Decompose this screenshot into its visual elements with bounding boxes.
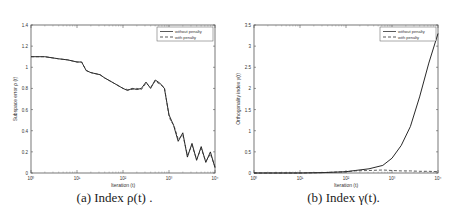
y-tick-label: 3.5 xyxy=(245,23,252,28)
x-tick-label: 10⁴ xyxy=(212,176,219,181)
caption-gamma: (b) Index γ(t). xyxy=(229,190,458,206)
x-tick-label: 10⁰ xyxy=(27,176,34,181)
gamma-chart: 00.511.522.533.510⁰10¹10²10³10⁴Iteration… xyxy=(229,0,458,190)
x-tick-label: 10⁴ xyxy=(435,176,442,181)
plot-area xyxy=(31,25,215,173)
y-axis-label: Orthogonality index γ(t) xyxy=(235,73,241,125)
x-tick-label: 10² xyxy=(343,176,350,181)
y-tick-label: 0.4 xyxy=(22,129,29,134)
y-tick-label: 1.2 xyxy=(22,44,29,49)
plot-area xyxy=(254,25,438,173)
chart-panel-rho: 00.20.40.60.811.21.410⁰10¹10²10³10⁴Itera… xyxy=(0,0,229,219)
x-tick-label: 10² xyxy=(120,176,127,181)
x-tick-label: 10¹ xyxy=(297,176,304,181)
x-tick-label: 10¹ xyxy=(74,176,81,181)
y-tick-label: 1 xyxy=(248,129,251,134)
y-tick-label: 2 xyxy=(248,86,251,91)
legend-entry: without penalty xyxy=(175,29,202,34)
y-tick-label: 3 xyxy=(248,44,251,49)
x-axis-label: Iteration (t) xyxy=(111,182,136,188)
y-axis-label: Subspace error ρ (t) xyxy=(12,76,18,121)
y-tick-label: 0.5 xyxy=(245,150,252,155)
x-axis-label: Iteration (t) xyxy=(334,182,359,188)
chart-panel-gamma: 00.511.522.533.510⁰10¹10²10³10⁴Iteration… xyxy=(229,0,458,219)
legend-entry: with penalty xyxy=(175,35,196,40)
y-tick-label: 0.6 xyxy=(22,108,29,113)
y-tick-label: 0.2 xyxy=(22,150,29,155)
rho-chart: 00.20.40.60.811.21.410⁰10¹10²10³10⁴Itera… xyxy=(0,0,229,190)
y-tick-label: 1 xyxy=(25,65,28,70)
caption-rho: (a) Index ρ(t) . xyxy=(0,190,229,206)
x-tick-label: 10³ xyxy=(389,176,396,181)
legend-entry: with penalty xyxy=(398,35,419,40)
x-tick-label: 10⁰ xyxy=(250,176,257,181)
legend-entry: without penalty xyxy=(398,29,425,34)
y-tick-label: 1.4 xyxy=(22,23,29,28)
y-tick-label: 2.5 xyxy=(245,65,252,70)
y-tick-label: 1.5 xyxy=(245,108,252,113)
x-tick-label: 10³ xyxy=(166,176,173,181)
y-tick-label: 0.8 xyxy=(22,86,29,91)
